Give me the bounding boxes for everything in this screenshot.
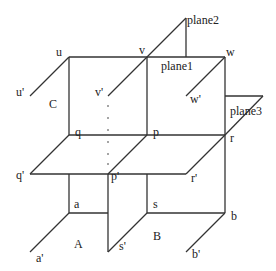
label-w: w [226, 46, 235, 58]
edge-q-qprime [30, 135, 69, 174]
label-r: r [230, 132, 234, 144]
label-region-b: B [153, 230, 161, 242]
edge-r-rprime [186, 135, 225, 174]
edge-a-aprime [30, 213, 69, 252]
label-plane2: plane2 [187, 14, 219, 26]
diagram-lines [0, 0, 276, 271]
plane2-diagonal [147, 18, 186, 57]
label-q-prime: q' [16, 169, 24, 181]
label-v: v [139, 44, 145, 56]
edge-v-vprime [108, 57, 147, 96]
label-q: q [75, 126, 81, 138]
label-p-prime: p' [111, 170, 119, 182]
label-region-c: C [49, 98, 57, 110]
label-u-prime: u' [16, 86, 24, 98]
label-s: s [153, 198, 158, 210]
label-plane3: plane3 [230, 105, 262, 117]
edge-s-sprime [108, 213, 147, 252]
label-a-prime: a' [36, 252, 44, 264]
label-b-prime: b' [192, 248, 200, 260]
label-s-prime: s' [119, 240, 126, 252]
label-a: a [74, 198, 79, 210]
label-plane1: plane1 [161, 60, 193, 72]
label-b: b [231, 210, 237, 222]
label-v-prime: v' [95, 86, 103, 98]
label-u: u [56, 46, 62, 58]
label-w-prime: w' [190, 93, 201, 105]
edge-u-uprime [30, 57, 69, 96]
label-r-prime: r' [191, 172, 197, 184]
three-planes-diagram: u v w u' v' w' C plane2 plane1 plane3 q … [0, 0, 276, 271]
label-region-a: A [74, 238, 83, 250]
label-p: p [153, 126, 159, 138]
